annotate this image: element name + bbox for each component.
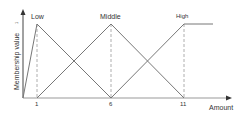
- series-high: [111, 24, 213, 98]
- x-tick-1: 1: [35, 101, 38, 107]
- label-high: High: [176, 13, 188, 19]
- x-axis-label: Amount: [209, 104, 233, 111]
- series-low: [23, 24, 111, 98]
- x-tick-6: 6: [109, 101, 112, 107]
- x-axis-arrow-icon: [226, 96, 232, 101]
- y-axis-arrow-icon: [21, 9, 26, 15]
- series-middle: [37, 24, 184, 98]
- label-low: Low: [31, 13, 44, 20]
- y-axis-label: Membership value: [13, 33, 20, 90]
- x-tick-11: 11: [180, 101, 186, 107]
- y-tick-1: 1: [15, 22, 19, 24]
- label-middle: Middle: [100, 13, 121, 20]
